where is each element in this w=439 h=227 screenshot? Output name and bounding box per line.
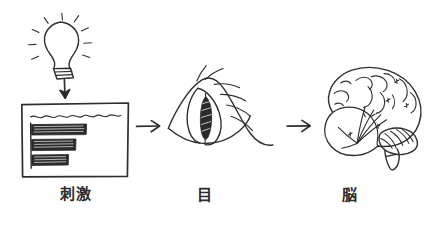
brain-icon [325,68,421,170]
stage-label-eye: 目 [197,188,213,203]
stage-label-brain: 脳 [342,188,358,203]
arrow-eye-to-brain [287,120,310,131]
diagram-canvas: 刺激 目 脳 [0,0,439,227]
light-rays-icon [29,13,92,59]
chart-bar [32,139,76,151]
stage-label-stimulus: 刺激 [60,187,91,202]
light-bulb-icon [29,13,92,79]
chart-bar [31,124,86,135]
arrow-stimulus-to-eye [137,121,160,132]
poster-panel [22,103,129,177]
down-arrow-icon [60,80,70,99]
wavy-title-line [31,115,121,118]
pupil-icon [200,93,211,143]
chart-bar [32,155,69,166]
eye-icon [168,66,273,146]
